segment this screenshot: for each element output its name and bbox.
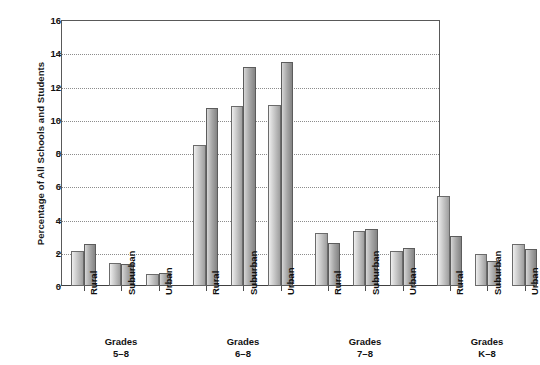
x-group-label: Grades7–8: [320, 336, 410, 360]
bar: [71, 251, 84, 286]
x-category-label: Rural: [454, 271, 465, 295]
x-tick-mark: [206, 286, 207, 291]
y-tick-label-4: 4: [9, 214, 61, 225]
x-group-label-line2: K–8: [442, 348, 532, 360]
x-category-label: Suburban: [126, 251, 137, 295]
x-tick-mark: [243, 286, 244, 291]
x-tick-mark: [403, 286, 404, 291]
x-group-label-line2: 5–8: [76, 348, 166, 360]
x-tick-mark: [525, 286, 526, 291]
y-tick-label-14: 14: [9, 48, 61, 59]
bars-layer: [61, 20, 440, 286]
bar: [193, 145, 206, 286]
bar: [231, 106, 244, 286]
x-category-label: Suburban: [248, 251, 259, 295]
x-category-label: Suburban: [370, 251, 381, 295]
x-category-label: Rural: [332, 271, 343, 295]
x-group-label: GradesK–8: [442, 336, 532, 360]
bar: [146, 274, 159, 286]
bar: [353, 231, 366, 286]
x-group-label-line2: 7–8: [320, 348, 410, 360]
x-tick-mark: [328, 286, 329, 291]
x-category-label: Rural: [88, 271, 99, 295]
x-group-label: Grades6–8: [198, 336, 288, 360]
x-tick-mark: [84, 286, 85, 291]
x-group-label-line1: Grades: [198, 336, 288, 348]
x-category-label: Rural: [210, 271, 221, 295]
x-category-label: Urban: [407, 268, 418, 295]
x-tick-mark: [365, 286, 366, 291]
x-category-label: Urban: [529, 268, 540, 295]
bar: [206, 108, 219, 286]
y-tick-label-12: 12: [9, 81, 61, 92]
x-category-label: Urban: [285, 268, 296, 295]
x-group-label-line1: Grades: [442, 336, 532, 348]
x-category-label: Suburban: [492, 251, 503, 295]
bar: [109, 263, 122, 286]
y-tick-label-0: 0: [9, 281, 61, 292]
y-tick-label-10: 10: [9, 114, 61, 125]
x-group-label-line1: Grades: [76, 336, 166, 348]
bar: [315, 233, 328, 286]
x-category-label: Urban: [163, 268, 174, 295]
y-tick-label-2: 2: [9, 247, 61, 258]
y-tick-label-6: 6: [9, 181, 61, 192]
x-tick-mark: [281, 286, 282, 291]
x-group-label: Grades5–8: [76, 336, 166, 360]
x-tick-mark: [159, 286, 160, 291]
y-axis: 1614121086420: [0, 0, 61, 365]
bar: [281, 62, 294, 286]
x-tick-mark: [487, 286, 488, 291]
y-tick-label-16: 16: [9, 15, 61, 26]
x-tick-mark: [450, 286, 451, 291]
x-group-label-line1: Grades: [320, 336, 410, 348]
bar: [512, 244, 525, 286]
x-tick-mark: [121, 286, 122, 291]
bar: [475, 254, 488, 286]
bar: [437, 196, 450, 286]
x-group-label-line2: 6–8: [198, 348, 288, 360]
y-tick-label-8: 8: [9, 148, 61, 159]
bar: [268, 105, 281, 286]
y-tick-mark-0: [56, 286, 61, 287]
bar: [390, 251, 403, 286]
